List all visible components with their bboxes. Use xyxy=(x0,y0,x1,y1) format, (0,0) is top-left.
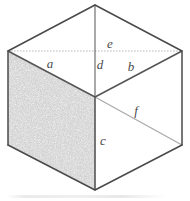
edge-label-a: a xyxy=(47,57,54,70)
cube-figure-svg xyxy=(0,0,190,201)
edge-label-b: b xyxy=(128,60,135,73)
edge-label-c: c xyxy=(100,134,106,147)
figure-container: a b c d e f xyxy=(0,0,190,201)
edge-label-f: f xyxy=(134,104,138,117)
edge-label-e: e xyxy=(107,37,113,50)
edge-label-d: d xyxy=(97,58,104,71)
scan-artifact-smudge xyxy=(6,195,166,198)
